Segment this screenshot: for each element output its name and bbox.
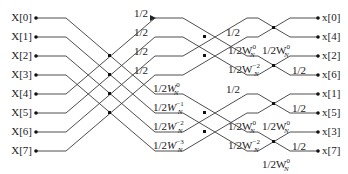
output-label-1: x[4] — [322, 31, 340, 42]
stage1-weight-5: 1/2W−1N — [153, 102, 182, 115]
output-label-6: x[3] — [322, 126, 340, 137]
stage1-weight-7: 1/2W−3N — [153, 140, 182, 153]
stage2-weight-4: 1/2W0N — [228, 121, 255, 134]
output-label-7: x[7] — [322, 145, 340, 156]
stage1-weight-6: 1/2W−2N — [153, 121, 182, 134]
stage2-weight-0: 1/2 — [226, 27, 240, 38]
output-label-4: x[1] — [322, 88, 340, 99]
stage3-weight-0: 1/2W0N — [262, 45, 289, 58]
output-label-2: x[2] — [322, 50, 340, 61]
output-label-5: x[5] — [322, 107, 340, 118]
stage1-weight-2: 1/2 — [134, 46, 148, 57]
stage2-weight-2: 1/2W−2N — [228, 64, 259, 77]
stage1-weight-0: 1/2 — [134, 8, 148, 19]
stage1-weight-1: 1/2 — [134, 27, 148, 38]
input-label-4: X[4] — [2, 88, 32, 99]
input-label-5: X[5] — [2, 107, 32, 118]
output-label-0: x[0] — [322, 12, 340, 23]
stage2-weight-1: 1/2W0N — [228, 45, 255, 58]
input-label-6: X[6] — [2, 126, 32, 137]
stage3-weight-5: 1/2W0N — [262, 159, 289, 172]
input-label-0: X[0] — [2, 12, 32, 23]
stage3-weight-4: 1/2 — [292, 141, 306, 152]
input-label-1: X[1] — [2, 31, 32, 42]
input-label-2: X[2] — [2, 50, 32, 61]
stage3-weight-1: 1/2 — [292, 65, 306, 76]
input-label-7: X[7] — [2, 145, 32, 156]
output-label-3: x[6] — [322, 69, 340, 80]
stage3-weight-3: 1/2W0N — [262, 121, 289, 134]
stage2-weight-5: 1/2W−2N — [228, 140, 259, 153]
stage1-weight-4: 1/2W0N — [153, 83, 178, 96]
input-label-3: X[3] — [2, 69, 32, 80]
fft-butterfly-diagram: X[0] X[1] X[2] X[3] X[4] X[5] X[6] X[7] … — [0, 0, 348, 174]
stage2-weight-3: 1/2 — [226, 84, 240, 95]
stage1-weight-3: 1/2 — [134, 65, 148, 76]
stage3-weight-2: 1/2 — [292, 103, 306, 114]
